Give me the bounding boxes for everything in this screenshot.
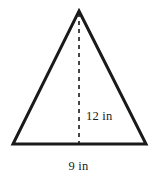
height-dimension-label: 12 in (86, 110, 112, 123)
geometry-figure: 12 in 9 in (0, 0, 157, 182)
triangle-diagram-svg (0, 0, 157, 182)
base-dimension-label: 9 in (0, 160, 157, 173)
